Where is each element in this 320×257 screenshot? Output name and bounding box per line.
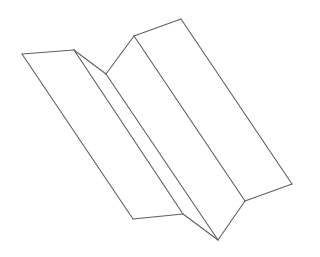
paper-panels [22, 19, 292, 240]
folded-paper-diagram [0, 0, 320, 257]
